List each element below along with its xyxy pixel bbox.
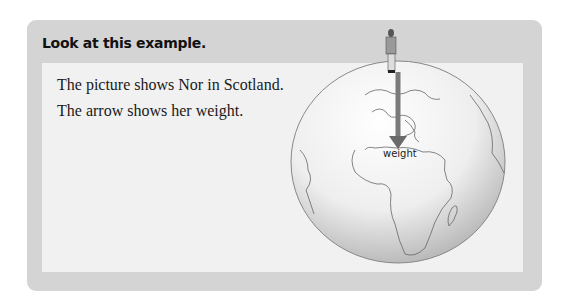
weight-arrow-label: weight [383,148,417,159]
globe-illustration [0,0,565,308]
